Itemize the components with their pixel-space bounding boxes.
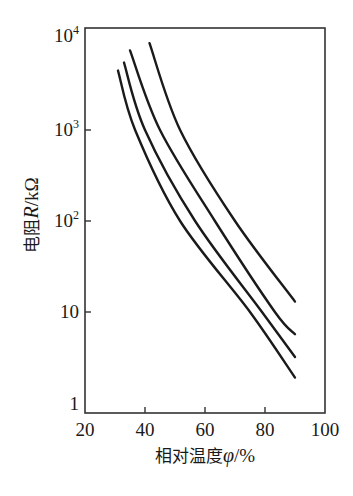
chart: 20406080100 110102103104 相对温度φ/% 电阻R/kΩ: [0, 0, 353, 496]
y-tick-label: 1: [70, 393, 80, 414]
y-tick-label: 10: [60, 301, 79, 322]
x-axis-title: 相对温度φ/%: [155, 444, 255, 467]
y-tick-label: 102: [54, 208, 79, 231]
curve-1-line: [118, 71, 295, 378]
y-tick-label: 104: [54, 23, 79, 46]
x-tick-label: 60: [196, 419, 215, 440]
x-axis-ticks: 20406080100: [76, 407, 340, 440]
x-tick-label: 40: [136, 419, 155, 440]
x-tick-label: 80: [256, 419, 275, 440]
x-tick-label: 100: [311, 419, 340, 440]
curve-3-line: [130, 50, 295, 334]
y-axis-title: 电阻R/kΩ: [20, 177, 42, 252]
data-series: [118, 43, 295, 377]
curve-4-line: [150, 43, 296, 301]
y-tick-label: 103: [54, 117, 79, 140]
x-tick-label: 20: [76, 419, 95, 440]
